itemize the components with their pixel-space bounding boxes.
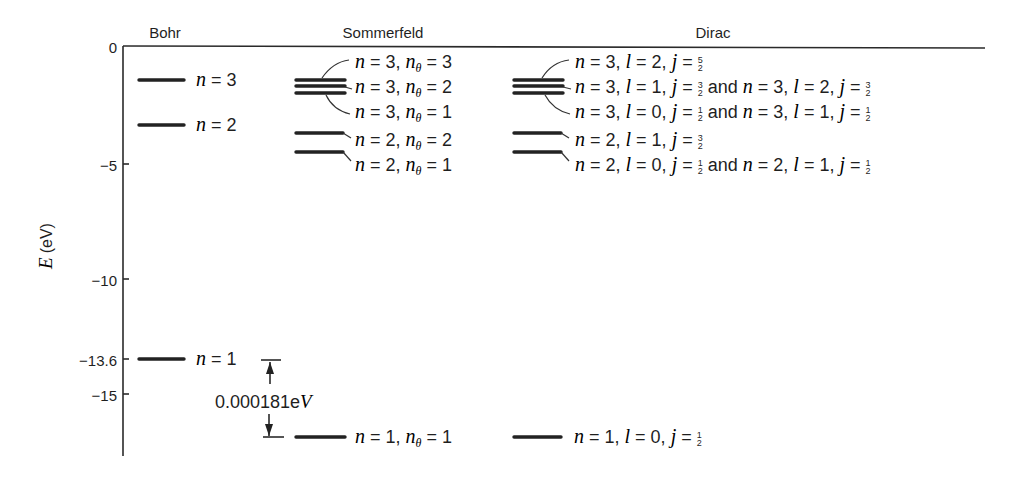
dirac-connector-0 — [542, 60, 569, 78]
connector-3-1 — [326, 95, 350, 114]
sommerfeld-label-4: n = 2, nθ = 1 — [355, 153, 452, 178]
sommerfeld-levels: n = 3, nθ = 3 n = 3, nθ = 2 n = 3, nθ = … — [296, 50, 452, 450]
tick-label-minus-5: −5 — [100, 157, 117, 174]
svg-text:E(eV): E(eV) — [35, 223, 56, 270]
bohr-label-n2: n = 2 — [196, 113, 237, 135]
tick-label-minus-10: −10 — [92, 272, 117, 289]
connector-3-2 — [345, 87, 352, 89]
dirac-connector-1 — [563, 87, 571, 89]
energy-level-diagram: Bohr Sommerfeld Dirac 0 −5 −10 −13.6 −15… — [0, 0, 1013, 479]
zero-energy-line — [123, 46, 985, 48]
dirac-label-2: n = 3, l = 0, j = 12 and n = 3, l = 1, j… — [575, 100, 871, 123]
connector-2-1 — [343, 152, 351, 161]
sommerfeld-label-5: n = 1, nθ = 1 — [355, 425, 452, 450]
column-title-sommerfeld: Sommerfeld — [343, 24, 424, 41]
sommerfeld-label-0: n = 3, nθ = 3 — [355, 50, 452, 75]
dirac-label-3: n = 2, l = 1, j = 32 — [575, 128, 703, 151]
bohr-levels: n = 3 n = 2 n = 1 — [139, 68, 237, 369]
dirac-connector-2 — [545, 95, 570, 114]
gap-annotation: 0.000181eV — [215, 360, 314, 437]
connector-2-2 — [343, 133, 351, 138]
dirac-label-5: n = 1, l = 0, j = 12 — [574, 425, 702, 448]
tick-label-minus-13-6: −13.6 — [79, 352, 117, 369]
sommerfeld-label-1: n = 3, nθ = 2 — [355, 75, 452, 100]
sommerfeld-label-2: n = 3, nθ = 1 — [355, 100, 452, 125]
bohr-label-n3: n = 3 — [196, 68, 237, 90]
column-title-dirac: Dirac — [695, 24, 731, 41]
y-axis-label: E(eV) — [35, 223, 56, 270]
dirac-label-0: n = 3, l = 2, j = 52 — [575, 50, 703, 73]
tick-label-minus-15: −15 — [92, 387, 117, 404]
bohr-label-n1: n = 1 — [196, 347, 237, 369]
dirac-connector-3 — [561, 133, 569, 138]
gap-value-label: 0.000181eV — [215, 391, 314, 412]
arrow-down-icon — [265, 424, 273, 436]
dirac-label-1: n = 3, l = 1, j = 32 and n = 3, l = 2, j… — [575, 75, 871, 98]
y-axis-unit: (eV) — [38, 223, 55, 253]
y-axis-symbol: E — [35, 257, 56, 270]
arrow-up-icon — [266, 362, 274, 374]
dirac-levels: n = 3, l = 2, j = 52 n = 3, l = 1, j = 3… — [514, 50, 871, 448]
sommerfeld-label-3: n = 2, nθ = 2 — [355, 128, 452, 153]
connector-3-3 — [322, 60, 349, 78]
tick-label-0: 0 — [109, 39, 117, 56]
column-title-bohr: Bohr — [149, 24, 181, 41]
dirac-label-4: n = 2, l = 0, j = 12 and n = 2, l = 1, j… — [575, 153, 871, 176]
dirac-connector-4 — [561, 152, 569, 161]
